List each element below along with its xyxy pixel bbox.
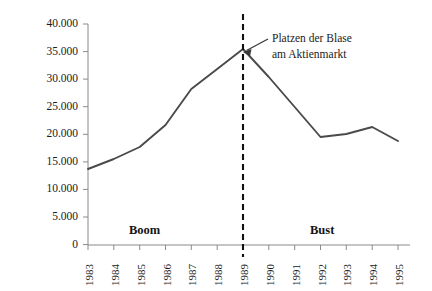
bubble-burst-annotation: Platzen der Blase am Aktienmarkt	[272, 31, 352, 62]
annotation-line-1: Platzen der Blase	[272, 31, 352, 47]
xtick-label-1989: 1989	[239, 264, 250, 286]
xtick-label-1993: 1993	[342, 264, 353, 286]
xtick-label-1991: 1991	[291, 264, 302, 286]
ytick-label-10000: 10.000	[20, 183, 78, 195]
annotation-arrow-icon	[243, 39, 268, 57]
region-label-boom: Boom	[129, 224, 160, 237]
y-axis-ticks	[83, 24, 88, 245]
region-label-bust: Bust	[310, 224, 334, 237]
ytick-label-40000: 40.000	[20, 18, 78, 30]
ytick-label-30000: 30.000	[20, 73, 78, 85]
ytick-label-35000: 35.000	[20, 46, 78, 58]
chart-figure: 40.000 35.000 30.000 25.000 20.000 15.00…	[0, 0, 432, 291]
ytick-label-25000: 25.000	[20, 101, 78, 113]
xtick-label-1995: 1995	[394, 264, 405, 286]
xtick-label-1987: 1987	[187, 264, 198, 286]
annotation-line-2: am Aktienmarkt	[272, 47, 352, 63]
xtick-label-1988: 1988	[213, 264, 224, 286]
xtick-label-1990: 1990	[265, 264, 276, 286]
xtick-label-1994: 1994	[368, 264, 379, 286]
xtick-label-1985: 1985	[136, 264, 147, 286]
ytick-label-15000: 15.000	[20, 156, 78, 168]
xtick-label-1986: 1986	[162, 264, 173, 286]
xtick-label-1992: 1992	[317, 264, 328, 286]
ytick-label-20000: 20.000	[20, 128, 78, 140]
xtick-label-1984: 1984	[110, 264, 121, 286]
xtick-label-1983: 1983	[84, 264, 95, 286]
ytick-label-0: 0	[20, 239, 78, 251]
ytick-label-5000: 5.000	[20, 211, 78, 223]
